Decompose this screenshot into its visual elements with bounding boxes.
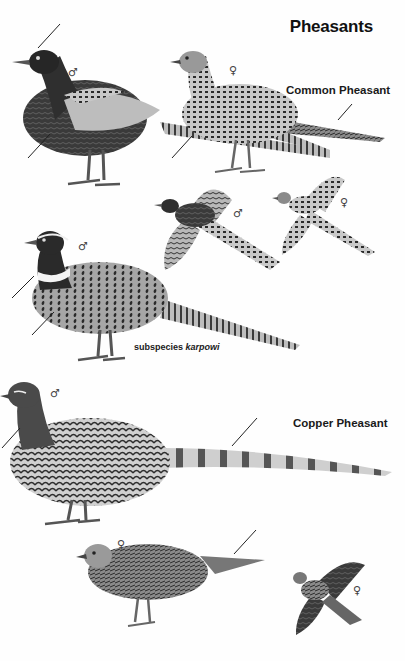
- species-label-copper-pheasant: Copper Pheasant: [293, 417, 388, 429]
- male-symbol: ♂: [68, 66, 78, 79]
- female-symbol: ♀: [229, 64, 237, 77]
- male-symbol: ♂: [233, 207, 243, 220]
- male-symbol: ♂: [50, 387, 60, 400]
- common-female-flying-figure: [272, 177, 375, 256]
- subspecies-name: karpowi: [186, 342, 220, 352]
- female-symbol: ♀: [117, 538, 125, 551]
- female-symbol: ♀: [340, 196, 348, 209]
- illustration-plate: Pheasants Common Pheasant Copper Pheasan…: [0, 0, 405, 661]
- male-symbol: ♂: [78, 240, 88, 253]
- subspecies-prefix: subspecies: [134, 342, 183, 352]
- plate-artwork: [0, 0, 405, 661]
- copper-female-flying-figure: [293, 562, 365, 635]
- plate-title: Pheasants: [290, 17, 373, 37]
- common-female-figure: [170, 51, 385, 172]
- copper-female-figure: [76, 530, 265, 626]
- common-male-flying-figure: [154, 190, 280, 270]
- copper-male-figure: [0, 382, 392, 524]
- species-label-common-pheasant: Common Pheasant: [286, 84, 390, 96]
- subspecies-caption: subspecies karpowi: [134, 342, 220, 352]
- female-symbol: ♀: [353, 584, 361, 597]
